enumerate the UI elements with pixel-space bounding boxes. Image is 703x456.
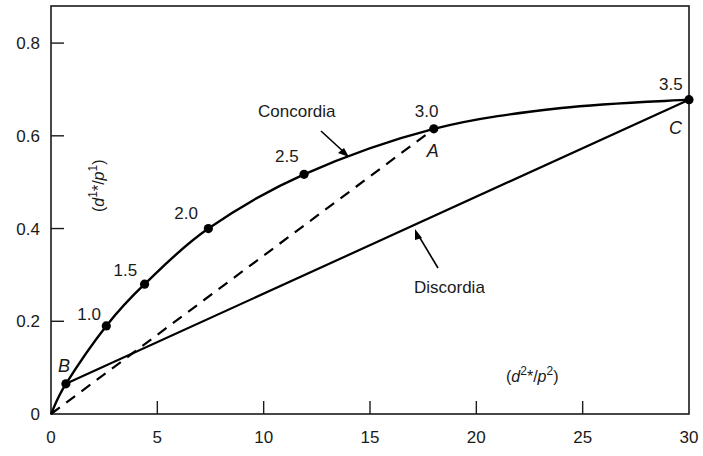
data-point	[140, 280, 149, 289]
data-point	[299, 170, 308, 179]
point-label-a: A	[426, 141, 439, 161]
x-axis-label: (d2*/p2)	[506, 364, 559, 385]
age-marker-label: 3.5	[659, 75, 683, 94]
concordia-annotation-label: Concordia	[258, 102, 336, 121]
x-tick-label: 30	[680, 428, 699, 447]
concordia-arrowhead-icon	[338, 148, 349, 157]
y-tick-label: 0.2	[16, 312, 40, 331]
concordia-discordia-chart: 051015202530 00.20.40.60.8 1.01.52.02.53…	[0, 0, 703, 456]
concordia-line	[51, 100, 689, 414]
age-marker-label: 3.0	[415, 102, 439, 121]
x-tick-label: 20	[467, 428, 486, 447]
x-tick-label: 5	[153, 428, 162, 447]
plot-frame-rect	[51, 6, 689, 414]
y-axis-ticks: 00.20.40.60.8	[16, 34, 64, 424]
y-tick-label: 0.4	[16, 220, 40, 239]
point-label-b: B	[58, 356, 70, 376]
age-marker-label: 2.0	[174, 204, 198, 223]
x-tick-label: 0	[46, 428, 55, 447]
x-tick-label: 15	[361, 428, 380, 447]
age-marker-label: 2.5	[275, 147, 299, 166]
data-point	[204, 224, 213, 233]
plot-frame	[51, 6, 689, 414]
reference-line	[51, 129, 434, 414]
x-tick-label: 10	[254, 428, 273, 447]
x-tick-label: 25	[573, 428, 592, 447]
y-tick-label: 0.6	[16, 127, 40, 146]
age-marker-label: 1.5	[114, 261, 138, 280]
data-point	[61, 379, 70, 388]
point-labels: 1.01.52.02.53.03.5BAC	[58, 75, 683, 376]
series-lines	[51, 100, 689, 414]
discordia-annotation-label: Discordia	[414, 278, 485, 297]
y-tick-label: 0	[31, 405, 40, 424]
data-point	[684, 95, 693, 104]
x-axis-ticks: 051015202530	[46, 401, 698, 447]
data-point	[429, 124, 438, 133]
annotations: Concordia Discordia	[258, 102, 485, 297]
point-label-c: C	[669, 118, 683, 138]
discordia-line	[66, 100, 689, 384]
y-axis-label: (d1*/p1)	[86, 159, 107, 212]
age-marker-label: 1.0	[77, 305, 101, 324]
data-point	[102, 321, 111, 330]
y-tick-label: 0.8	[16, 34, 40, 53]
